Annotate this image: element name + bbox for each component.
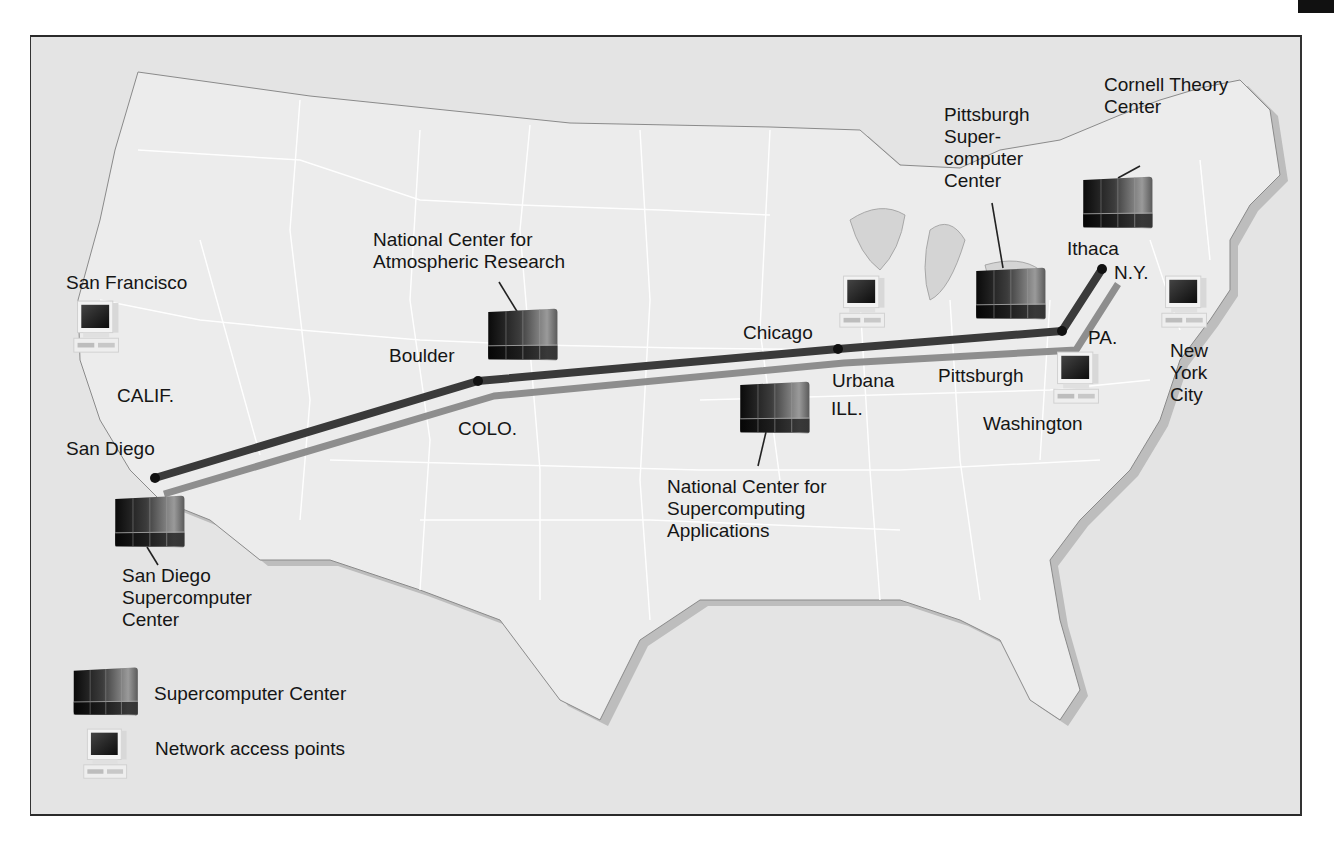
label-ny: N.Y. xyxy=(1114,262,1149,284)
label-urbana: Urbana xyxy=(832,370,894,392)
label-chicago: Chicago xyxy=(743,322,813,344)
legend-supercomputer-label: Supercomputer Center xyxy=(154,683,346,705)
workstation-icon xyxy=(74,301,119,352)
label-washington: Washington xyxy=(983,413,1083,435)
workstation-icon xyxy=(1054,352,1099,403)
node-boulder xyxy=(473,376,483,386)
label-boulder: Boulder xyxy=(389,345,455,367)
node-pittsburgh xyxy=(1057,326,1067,336)
workstation-icon xyxy=(1162,276,1207,327)
node-chicago xyxy=(833,344,843,354)
node-san-diego xyxy=(150,473,160,483)
supercomputer-icon xyxy=(740,382,809,434)
label-ncsa: National Center for Supercomputing Appli… xyxy=(667,476,826,542)
legend-access-point-label: Network access points xyxy=(155,738,345,760)
label-pittsburgh: Pittsburgh xyxy=(938,365,1024,387)
label-ithaca: Ithaca xyxy=(1067,238,1119,260)
supercomputer-icon xyxy=(976,268,1045,320)
label-pa: PA. xyxy=(1088,327,1117,349)
label-sdsc: San Diego Supercomputer Center xyxy=(122,565,252,631)
label-nyc: New York City xyxy=(1170,340,1208,406)
workstation-icon xyxy=(840,276,885,327)
label-colo: COLO. xyxy=(458,418,517,440)
label-psc: Pittsburgh Super- computer Center xyxy=(944,104,1030,192)
label-calif: CALIF. xyxy=(117,385,174,407)
us-map xyxy=(0,0,1334,841)
label-cornell: Cornell Theory Center xyxy=(1104,74,1228,118)
supercomputer-icon xyxy=(488,309,557,361)
supercomputer-icon xyxy=(74,668,138,716)
node-ithaca xyxy=(1097,264,1107,274)
workstation-icon xyxy=(84,729,127,778)
label-ill: ILL. xyxy=(831,398,863,420)
supercomputer-icon xyxy=(1083,177,1152,229)
label-san-francisco: San Francisco xyxy=(66,272,187,294)
label-san-diego: San Diego xyxy=(66,438,155,460)
supercomputer-icon xyxy=(115,496,184,548)
label-ncar: National Center for Atmospheric Research xyxy=(373,229,565,273)
